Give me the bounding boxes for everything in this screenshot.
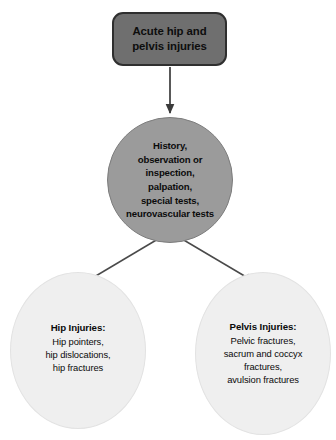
node-hip-injuries: Hip Injuries: Hip pointers, hip dislocat… (10, 272, 146, 429)
node-assessment: History, observation or inspection, palp… (107, 117, 233, 243)
node-pelvis-injuries-title: Pelvis Injuries: (224, 320, 303, 334)
node-acute-hip-and-pelvis-injuries: Acute hip and pelvis injuries (112, 12, 227, 66)
node-pelvis-injuries: Pelvis Injuries: Pelvic fractures, sacru… (195, 272, 331, 435)
node-pelvis-injuries-text: Pelvis Injuries: Pelvic fractures, sacru… (214, 320, 313, 386)
node-hip-injuries-body: Hip pointers, hip dislocations, hip frac… (45, 335, 110, 374)
node-assessment-label: History, observation or inspection, palp… (124, 139, 216, 221)
node-hip-injuries-title: Hip Injuries: (45, 321, 110, 335)
node-hip-injuries-text: Hip Injuries: Hip pointers, hip dislocat… (35, 321, 120, 374)
node-pelvis-injuries-body: Pelvic fractures, sacrum and coccyx frac… (224, 334, 303, 387)
flowchart-diagram: Acute hip and pelvis injuries History, o… (0, 0, 336, 440)
node-acute-hip-and-pelvis-injuries-label: Acute hip and pelvis injuries (132, 24, 206, 54)
